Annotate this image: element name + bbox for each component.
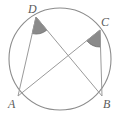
vertex-label-a: A bbox=[8, 98, 15, 110]
chord-CB bbox=[100, 30, 102, 96]
chord-DB bbox=[36, 17, 102, 96]
vertex-label-b: B bbox=[103, 98, 110, 110]
vertex-label-d: D bbox=[28, 3, 37, 15]
angle-marks-group bbox=[32, 17, 100, 47]
vertex-label-c: C bbox=[101, 16, 109, 28]
geometry-figure: D C A B bbox=[0, 0, 124, 125]
circumscribed-circle bbox=[9, 8, 111, 110]
chords-group bbox=[18, 17, 102, 96]
